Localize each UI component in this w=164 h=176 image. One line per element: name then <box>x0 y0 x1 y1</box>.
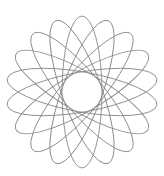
ellipse-curve <box>6 37 158 148</box>
ellipse-curve <box>6 37 158 148</box>
rosette-diagram <box>0 0 164 176</box>
ellipse-group <box>4 14 161 171</box>
ellipse-curve <box>62 16 102 168</box>
ellipse-curve <box>18 21 146 163</box>
ellipse-curve <box>18 21 146 163</box>
